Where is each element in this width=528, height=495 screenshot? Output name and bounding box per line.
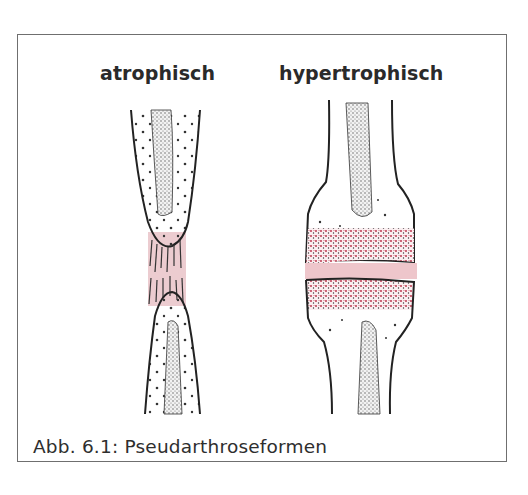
hypertrophic-bone	[305, 100, 417, 414]
atrophic-bone	[131, 110, 200, 414]
pseudarthrosis-illustration	[0, 0, 528, 495]
figure-caption: Abb. 6.1: Pseudarthroseformen	[33, 436, 327, 457]
